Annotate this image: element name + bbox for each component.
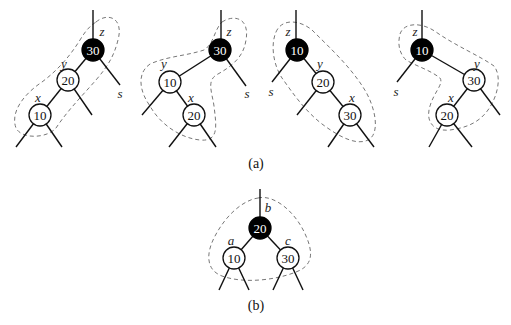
node-key: 10 bbox=[228, 251, 241, 266]
node-key: 10 bbox=[164, 75, 177, 90]
panel-a-case-1: 30 20 10 z y x s bbox=[15, 10, 123, 147]
sibling-label: s bbox=[117, 86, 122, 101]
panel-b: 20 10 30 b a c bbox=[209, 189, 311, 290]
node-key: 20 bbox=[62, 73, 75, 88]
panel-a-case-3: 10 20 30 z y x s bbox=[268, 10, 375, 147]
node-key: 20 bbox=[254, 221, 267, 236]
node-label: b bbox=[265, 200, 272, 215]
node-label: y bbox=[472, 56, 480, 71]
node-label: z bbox=[98, 24, 104, 39]
node-key: 10 bbox=[416, 43, 429, 58]
node-key: 20 bbox=[188, 108, 201, 123]
sibling-label: s bbox=[268, 84, 273, 99]
node-key: 30 bbox=[468, 73, 481, 88]
node-label: c bbox=[285, 233, 291, 248]
node-key: 20 bbox=[441, 108, 454, 123]
sibling-label: s bbox=[393, 84, 398, 99]
node-label: x bbox=[34, 90, 41, 105]
node-label: z bbox=[225, 24, 231, 39]
node-label: x bbox=[187, 90, 194, 105]
sibling-label: s bbox=[244, 86, 249, 101]
node-key: 30 bbox=[214, 43, 227, 58]
panel-a-case-2: 30 10 20 z y x s bbox=[141, 10, 250, 147]
node-label: x bbox=[348, 90, 355, 105]
node-label: z bbox=[411, 24, 417, 39]
node-label: z bbox=[284, 24, 290, 39]
caption-a: (a) bbox=[248, 156, 264, 172]
node-label: y bbox=[159, 56, 167, 71]
node-key: 30 bbox=[87, 43, 100, 58]
panel-a-case-4: 10 30 20 z y x s bbox=[393, 10, 500, 147]
restructure-diagram: 30 20 10 z y x s 30 10 20 z y x s bbox=[0, 0, 511, 325]
node-key: 30 bbox=[344, 108, 357, 123]
node-label: y bbox=[59, 56, 67, 71]
node-label: x bbox=[447, 90, 454, 105]
node-key: 20 bbox=[317, 75, 330, 90]
node-key: 10 bbox=[291, 43, 304, 58]
node-label: y bbox=[315, 56, 323, 71]
node-label: a bbox=[228, 233, 235, 248]
node-key: 30 bbox=[282, 251, 295, 266]
caption-b: (b) bbox=[248, 298, 265, 314]
node-key: 10 bbox=[34, 108, 47, 123]
